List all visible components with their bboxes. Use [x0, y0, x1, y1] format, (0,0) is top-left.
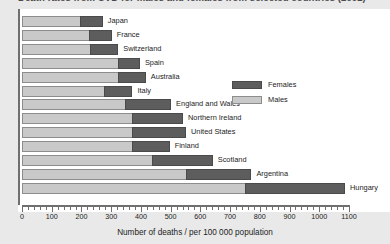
legend-label-females: Females: [268, 80, 296, 90]
x-tick-minor: [34, 207, 35, 210]
bar-segment-males: [22, 30, 90, 41]
bar-category-label: Japan: [104, 15, 128, 27]
x-tick-minor: [58, 207, 59, 210]
x-tick-minor: [93, 207, 94, 210]
x-tick-minor: [337, 207, 338, 210]
x-tick-minor: [28, 207, 29, 210]
x-tick-minor: [70, 207, 71, 210]
x-tick-minor: [87, 207, 88, 210]
bar-segment-males: [22, 16, 81, 27]
bar-category-label: United States: [187, 126, 235, 138]
bar-segment-males: [22, 127, 133, 138]
chart-page: Death rates from CVD for males and femal…: [0, 0, 390, 244]
bar-segment-females: [118, 72, 146, 83]
bar-segment-males: [22, 44, 91, 55]
bar-category-label: Argentina: [252, 168, 288, 180]
x-tick-minor: [301, 207, 302, 210]
bar-category-label: Switzerland: [119, 43, 161, 55]
x-tick-label: 700: [224, 212, 236, 221]
bar-segment-females: [89, 30, 111, 41]
bar-segment-males: [22, 169, 187, 180]
x-tick-minor: [331, 207, 332, 210]
bar-segment-females: [125, 99, 171, 110]
bar-category-label: France: [113, 29, 140, 41]
chart-title-strip: Death rates from CVD for males and femal…: [0, 0, 390, 8]
bar-segment-females: [132, 127, 186, 138]
x-tick-label: 800: [254, 212, 266, 221]
x-tick-label: 0: [20, 212, 24, 221]
bar-segment-females: [118, 58, 140, 69]
x-tick-minor: [177, 207, 178, 210]
x-tick-minor: [242, 207, 243, 210]
x-tick-label: 400: [135, 212, 147, 221]
x-tick-minor: [64, 207, 65, 210]
x-tick-minor: [99, 207, 100, 210]
x-tick-minor: [117, 207, 118, 210]
x-tick-label: 100: [46, 212, 58, 221]
x-tick-minor: [284, 207, 285, 210]
x-tick-minor: [212, 207, 213, 210]
bar-category-label: Finland: [171, 140, 199, 152]
legend-swatch-females-icon: [232, 81, 262, 89]
x-tick-label: 1100: [341, 212, 356, 221]
bar-segment-females: [245, 183, 345, 194]
x-tick-label: 500: [165, 212, 177, 221]
x-tick-minor: [165, 207, 166, 210]
bar-segment-females: [186, 169, 251, 180]
bar-segment-males: [22, 99, 126, 110]
x-tick-minor: [153, 207, 154, 210]
x-tick-minor: [218, 207, 219, 210]
bar-segment-females: [90, 44, 118, 55]
x-tick-minor: [248, 207, 249, 210]
bar-segment-females: [80, 16, 102, 27]
x-axis-title: Number of deaths / per 100 000 populatio…: [0, 228, 390, 237]
x-tick-minor: [76, 207, 77, 210]
y-axis-line: [18, 9, 20, 205]
bar-category-label: Scotland: [214, 154, 247, 166]
x-tick-minor: [266, 207, 267, 210]
x-tick-label: 200: [75, 212, 87, 221]
x-tick-minor: [194, 207, 195, 210]
bar-category-label: Australia: [147, 71, 180, 83]
x-tick-minor: [159, 207, 160, 210]
x-tick-minor: [295, 207, 296, 210]
bar-segment-males: [22, 141, 133, 152]
bar-segment-females: [104, 86, 132, 97]
bar-segment-males: [22, 72, 119, 83]
bar-category-label: Hungary: [346, 182, 378, 194]
x-tick-minor: [272, 207, 273, 210]
legend-label-males: Males: [268, 95, 288, 105]
x-tick-minor: [313, 207, 314, 210]
x-tick-minor: [183, 207, 184, 210]
bar-category-label: England and Wales: [172, 98, 240, 110]
x-tick-minor: [147, 207, 148, 210]
x-tick-minor: [123, 207, 124, 210]
bar-segment-males: [22, 86, 105, 97]
x-tick-minor: [46, 207, 47, 210]
bar-category-label: Northern Ireland: [184, 112, 241, 124]
x-tick-minor: [278, 207, 279, 210]
bar-segment-males: [22, 183, 246, 194]
bar-category-label: Italy: [133, 85, 151, 97]
x-tick-minor: [40, 207, 41, 210]
x-tick-minor: [206, 207, 207, 210]
bar-segment-males: [22, 155, 153, 166]
x-tick-label: 600: [194, 212, 206, 221]
bar-category-label: Spain: [141, 57, 164, 69]
x-tick-minor: [224, 207, 225, 210]
x-tick-minor: [105, 207, 106, 210]
x-tick-minor: [325, 207, 326, 210]
x-tick-label: 1000: [311, 212, 327, 221]
x-tick-minor: [129, 207, 130, 210]
x-tick-minor: [307, 207, 308, 210]
bar-segment-females: [152, 155, 213, 166]
bar-segment-males: [22, 113, 133, 124]
bar-segment-males: [22, 58, 119, 69]
x-tick-label: 300: [105, 212, 117, 221]
bar-segment-females: [132, 113, 183, 124]
x-tick-minor: [188, 207, 189, 210]
x-tick-minor: [254, 207, 255, 210]
legend-swatch-males-icon: [232, 96, 262, 104]
chart-title: Death rates from CVD for males and femal…: [18, 0, 366, 3]
x-tick-minor: [135, 207, 136, 210]
